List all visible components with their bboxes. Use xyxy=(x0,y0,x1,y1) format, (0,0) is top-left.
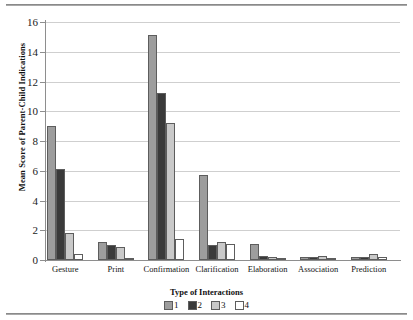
bar xyxy=(250,244,259,260)
legend-item[interactable]: 3 xyxy=(211,300,226,310)
y-tick-label: 12 xyxy=(10,77,38,87)
bar xyxy=(327,258,336,260)
legend-item[interactable]: 2 xyxy=(188,300,203,310)
legend: 1234 xyxy=(0,300,413,310)
legend-label: 4 xyxy=(245,300,250,310)
y-tick-label: 14 xyxy=(10,47,38,57)
x-axis-line xyxy=(45,260,401,261)
legend-label: 2 xyxy=(198,300,203,310)
bar-chart-figure: Mean Score of Parent-Child Indications 0… xyxy=(0,0,413,320)
bar xyxy=(309,257,318,260)
bar xyxy=(369,254,378,260)
x-axis-title: Type of Interactions xyxy=(0,287,413,297)
bar xyxy=(378,257,387,260)
bar xyxy=(148,35,157,260)
legend-item[interactable]: 1 xyxy=(164,300,179,310)
legend-label: 1 xyxy=(174,300,179,310)
y-tick-label: 4 xyxy=(10,196,38,206)
y-tick-label: 16 xyxy=(10,17,38,27)
bar xyxy=(116,247,125,260)
bar xyxy=(47,126,56,260)
legend-swatch-icon xyxy=(164,301,173,310)
bar xyxy=(166,123,175,260)
plot-area xyxy=(46,22,400,260)
bar xyxy=(351,257,360,260)
bar xyxy=(208,245,217,260)
bar xyxy=(199,175,208,260)
bar xyxy=(217,242,226,260)
bar xyxy=(98,242,107,260)
legend-label: 3 xyxy=(221,300,226,310)
bar xyxy=(318,256,327,260)
bar xyxy=(65,233,74,260)
bar xyxy=(300,257,309,260)
bar xyxy=(56,169,65,260)
y-tick-label: 8 xyxy=(10,136,38,146)
bar xyxy=(107,245,116,260)
bar xyxy=(157,93,166,260)
bottom-divider-rule xyxy=(6,313,407,315)
bar-group xyxy=(199,22,235,260)
bar-group xyxy=(98,22,134,260)
bar xyxy=(259,256,268,260)
y-tick-label: 10 xyxy=(10,106,38,116)
legend-swatch-icon xyxy=(235,301,244,310)
bar-group xyxy=(250,22,286,260)
bar xyxy=(125,258,134,260)
x-category-label: Prediction xyxy=(329,264,409,274)
bar xyxy=(268,257,277,260)
bar xyxy=(360,257,369,260)
bar xyxy=(175,239,184,260)
bar-group xyxy=(148,22,184,260)
legend-item[interactable]: 4 xyxy=(235,300,250,310)
y-tick-label: 6 xyxy=(10,166,38,176)
bar-group xyxy=(47,22,83,260)
top-divider-rule xyxy=(6,4,407,6)
legend-swatch-icon xyxy=(188,301,197,310)
y-tick-label: 2 xyxy=(10,225,38,235)
bar-group xyxy=(300,22,336,260)
bar xyxy=(277,258,286,260)
bar xyxy=(74,254,83,260)
bar xyxy=(226,244,235,260)
bar-group xyxy=(351,22,387,260)
legend-swatch-icon xyxy=(211,301,220,310)
